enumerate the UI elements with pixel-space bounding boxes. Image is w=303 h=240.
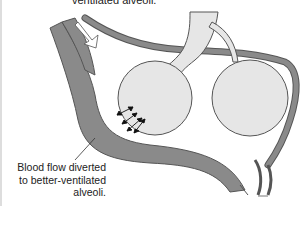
left-alveolus	[118, 61, 192, 135]
leader-line	[75, 138, 95, 160]
capillary-tail	[255, 160, 271, 195]
bottom-caption: Blood flow diverted to better-ventilated…	[2, 161, 106, 199]
caption-line-3: alveoli.	[2, 186, 106, 199]
right-alveolus	[212, 60, 288, 136]
caption-line-1: Blood flow diverted	[2, 161, 106, 174]
caption-line-2: to better-ventilated	[2, 174, 106, 187]
bronchiole-branch	[209, 22, 238, 62]
